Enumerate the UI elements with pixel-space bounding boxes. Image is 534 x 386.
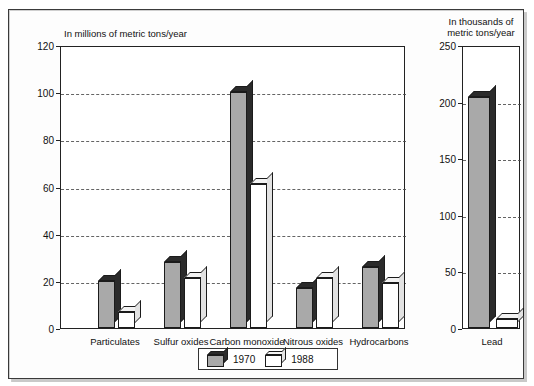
right-y-axis-title: In thousands of metric tons/year (438, 16, 524, 38)
bar-1970 (362, 267, 379, 328)
left-y-axis-title: In millions of metric tons/year (64, 28, 187, 39)
y-tick-mark (458, 103, 462, 104)
bar-1988 (118, 312, 135, 329)
y-tick-label: 120 (18, 41, 54, 52)
y-tick-label: 60 (18, 182, 54, 193)
y-tick-mark (458, 46, 462, 47)
left-chart-panel: In millions of metric tons/year 02040608… (18, 20, 413, 340)
bar-1970 (296, 288, 313, 328)
y-tick-mark (56, 235, 60, 236)
y-tick-mark (458, 329, 462, 330)
y-tick-mark (56, 188, 60, 189)
legend-swatch-1988-icon (265, 355, 282, 367)
bar-1988 (316, 278, 333, 328)
y-tick-mark (56, 329, 60, 330)
y-tick-mark (458, 216, 462, 217)
category-label: Particulates (90, 336, 140, 347)
y-tick-label: 0 (420, 324, 456, 335)
bar-1988 (382, 283, 399, 328)
category-label: Lead (481, 336, 502, 347)
bar-1970 (230, 92, 247, 328)
bar-1988 (184, 278, 201, 328)
legend-item-1988: 1988 (265, 352, 313, 367)
y-tick-label: 100 (420, 210, 456, 221)
category-label: Nitrous oxides (283, 336, 343, 347)
bar-1970 (468, 97, 490, 328)
y-tick-label: 200 (420, 97, 456, 108)
y-tick-label: 40 (18, 229, 54, 240)
y-tick-label: 150 (420, 154, 456, 165)
y-tick-label: 250 (420, 41, 456, 52)
chart-figure: In millions of metric tons/year 02040608… (0, 0, 534, 386)
y-tick-label: 20 (18, 276, 54, 287)
right-chart-panel: In thousands of metric tons/year 0501001… (420, 10, 526, 340)
y-tick-mark (56, 46, 60, 47)
y-tick-mark (458, 272, 462, 273)
category-label: Carbon monoxide (210, 336, 285, 347)
y-tick-label: 0 (18, 324, 54, 335)
y-tick-label: 80 (18, 135, 54, 146)
legend-label-1970: 1970 (233, 354, 255, 365)
y-tick-mark (458, 159, 462, 160)
category-label: Hydrocarbons (349, 336, 408, 347)
bar-1988 (496, 319, 518, 328)
left-plot-area (60, 46, 405, 329)
y-tick-mark (56, 140, 60, 141)
y-tick-label: 100 (18, 88, 54, 99)
y-tick-mark (56, 282, 60, 283)
category-label: Sulfur oxides (154, 336, 209, 347)
bar-1970 (164, 262, 181, 328)
legend-item-1970: 1970 (207, 352, 255, 367)
legend-label-1988: 1988 (291, 354, 313, 365)
legend-swatch-1970-icon (207, 355, 224, 367)
chart-legend: 1970 1988 (198, 348, 338, 370)
right-plot-area (462, 46, 520, 329)
bar-1970 (98, 281, 115, 328)
y-tick-mark (56, 93, 60, 94)
bar-1988 (250, 184, 267, 328)
y-tick-label: 50 (420, 267, 456, 278)
